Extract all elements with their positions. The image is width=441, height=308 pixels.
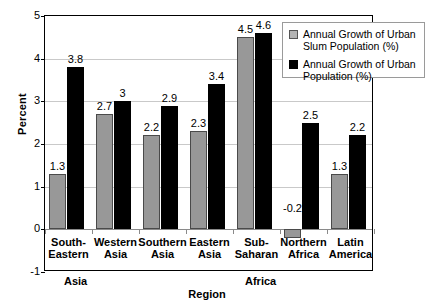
x-category-label-line: Northern <box>278 236 330 248</box>
y-tick-label: 5 <box>20 10 40 21</box>
x-category-label: WesternAsia <box>90 236 142 260</box>
bar-slum <box>331 174 348 229</box>
bar-urban <box>208 84 225 229</box>
x-category-label-line: Africa <box>278 248 330 260</box>
region-group-label: Asia <box>64 275 87 287</box>
x-category-label: SouthernAsia <box>137 236 189 260</box>
legend-item: Annual Growth of Urban Slum Population (… <box>289 28 418 52</box>
x-category-label: South-Eastern <box>43 236 95 260</box>
bar-slum <box>96 114 113 229</box>
x-category-label-line: South- <box>43 236 95 248</box>
y-tick-label: -1 <box>20 266 40 277</box>
legend-swatch-slum-icon <box>289 30 298 39</box>
region-group-label: Africa <box>245 275 276 287</box>
y-tick-label: 1 <box>20 180 40 191</box>
x-category-label: Sub-Saharan <box>231 236 283 260</box>
x-category-label-line: Sub- <box>231 236 283 248</box>
legend-label: Annual Growth of Urban Population (%) <box>303 58 418 82</box>
bar-group: 2.22.9 <box>139 16 186 270</box>
legend-label: Annual Growth of Urban Slum Population (… <box>303 28 418 52</box>
bar-value-label: 2.2 <box>343 122 373 133</box>
y-axis-ticks: 543210-1 <box>16 0 40 308</box>
x-category-label-line: Eastern <box>43 248 95 260</box>
bar-group: 4.54.6 <box>233 16 280 270</box>
bar-slum <box>190 131 207 229</box>
bar-value-label: 2.5 <box>296 110 326 121</box>
legend-swatch-urban-icon <box>289 60 298 69</box>
bar-slum <box>49 174 66 229</box>
y-tick-label: 3 <box>20 95 40 106</box>
bar-urban <box>67 67 84 229</box>
bar-urban <box>161 106 178 230</box>
x-tickmark <box>374 229 375 234</box>
x-category-label-line: Asia <box>137 248 189 260</box>
y-tick-label: 0 <box>20 223 40 234</box>
x-category-label-line: Saharan <box>231 248 283 260</box>
y-tick-label: 4 <box>20 52 40 63</box>
bar-urban <box>349 135 366 229</box>
bar-value-label: 3.4 <box>202 71 232 82</box>
x-category-label-line: Asia <box>90 248 142 260</box>
y-tickmark <box>41 272 45 273</box>
x-category-label-line: Asia <box>184 248 236 260</box>
bar-group: 2.33.4 <box>186 16 233 270</box>
bar-value-label: 3.8 <box>61 54 91 65</box>
bar-value-label: 3 <box>108 88 138 99</box>
x-category-label: EasternAsia <box>184 236 236 260</box>
x-category-label-line: Western <box>90 236 142 248</box>
x-category-label-line: Southern <box>137 236 189 248</box>
bar-urban <box>114 101 131 229</box>
x-axis-title: Region <box>167 288 247 300</box>
bar-value-label: 4.6 <box>249 20 279 31</box>
x-category-label-line: Eastern <box>184 236 236 248</box>
x-category-label-line: Latin <box>325 236 377 248</box>
bar-urban <box>302 123 319 230</box>
x-category-label: NorthernAfrica <box>278 236 330 260</box>
x-category-label: LatinAmerica <box>325 236 377 260</box>
bar-value-label: 2.9 <box>155 93 185 104</box>
bar-group: 1.33.8 <box>45 16 92 270</box>
chart-legend: Annual Growth of Urban Slum Population (… <box>282 22 425 78</box>
bar-chart: Percent 543210-1 1.33.82.732.22.92.33.44… <box>0 0 441 308</box>
bar-slum <box>237 37 254 229</box>
legend-item: Annual Growth of Urban Population (%) <box>289 58 418 82</box>
x-category-label-line: America <box>325 248 377 260</box>
bar-group: 2.73 <box>92 16 139 270</box>
bar-urban <box>255 33 272 229</box>
bar-slum <box>143 135 160 229</box>
y-tick-label: 2 <box>20 138 40 149</box>
